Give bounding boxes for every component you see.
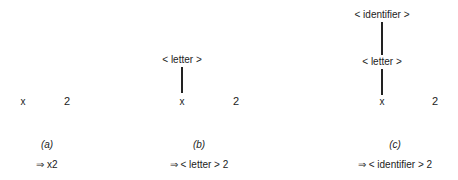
derivation: ⇒ < identifier > 2 bbox=[358, 159, 432, 171]
caption: (a) bbox=[41, 139, 53, 151]
derivation: ⇒ < letter > 2 bbox=[170, 159, 229, 171]
tree-edge bbox=[381, 22, 383, 55]
leaf-2: 2 bbox=[432, 95, 438, 107]
tree-edge bbox=[181, 67, 183, 93]
letter-node: < letter > bbox=[162, 54, 201, 66]
caption: (c) bbox=[389, 139, 401, 151]
leaf-2: 2 bbox=[233, 95, 239, 107]
derivation: ⇒ x2 bbox=[36, 159, 57, 171]
letter-node: < letter > bbox=[362, 56, 401, 68]
identifier-node: < identifier > bbox=[354, 9, 409, 21]
leaf-x: x bbox=[21, 96, 26, 108]
leaf-x: x bbox=[180, 96, 185, 108]
leaf-x: x bbox=[380, 96, 385, 108]
tree-edge bbox=[381, 69, 383, 95]
leaf-2: 2 bbox=[64, 95, 70, 107]
caption: (b) bbox=[193, 139, 205, 151]
